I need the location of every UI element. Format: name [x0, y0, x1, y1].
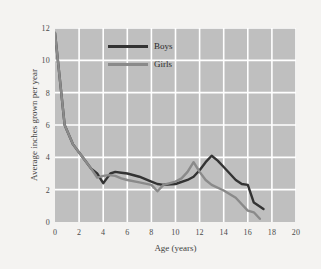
legend-label-girls: Girls — [154, 60, 172, 69]
legend-swatch-boys — [108, 45, 148, 48]
x-tick-8: 8 — [140, 228, 162, 237]
y-axis-label: Average inches grown per year — [29, 69, 39, 181]
x-axis-label: Age (years) — [55, 243, 296, 253]
x-tick-4: 4 — [92, 228, 114, 237]
x-tick-16: 16 — [237, 228, 259, 237]
chart-legend: Boys Girls — [108, 42, 173, 69]
legend-item-girls: Girls — [108, 60, 173, 69]
legend-label-boys: Boys — [154, 42, 173, 51]
legend-item-boys: Boys — [108, 42, 173, 51]
x-tick-18: 18 — [261, 228, 283, 237]
x-tick-2: 2 — [68, 228, 90, 237]
growth-chart-figure: 024681012 02468101214161820 Age (years) … — [0, 0, 321, 269]
legend-swatch-girls — [108, 63, 148, 66]
x-tick-20: 20 — [285, 228, 307, 237]
x-tick-10: 10 — [165, 228, 187, 237]
x-tick-0: 0 — [44, 228, 66, 237]
x-tick-14: 14 — [213, 228, 235, 237]
x-tick-12: 12 — [189, 228, 211, 237]
x-tick-6: 6 — [116, 228, 138, 237]
